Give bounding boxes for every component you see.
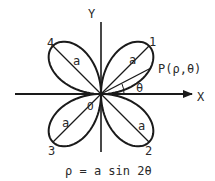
x-axis-label: X — [197, 90, 205, 104]
petal-number-2: 2 — [145, 144, 152, 158]
radius-label-3: a — [62, 116, 69, 130]
radius-label-4: a — [73, 54, 80, 68]
y-axis-label: Y — [88, 7, 96, 21]
petal-number-4: 4 — [47, 36, 54, 50]
equation-label: ρ = a sin 2θ — [65, 164, 152, 178]
rose-curve-diagram: Y X O 1 2 3 4 a a a a P(ρ,θ) θ ρ = a sin… — [0, 0, 215, 181]
origin-label: O — [87, 100, 94, 113]
radius-label-2: a — [138, 119, 145, 133]
petal-number-1: 1 — [149, 35, 156, 49]
theta-label: θ — [136, 81, 143, 95]
point-p-label: P(ρ,θ) — [158, 62, 201, 76]
angle-theta-arc — [122, 84, 124, 94]
petal-number-3: 3 — [48, 144, 55, 158]
radius-label-1: a — [129, 53, 136, 67]
